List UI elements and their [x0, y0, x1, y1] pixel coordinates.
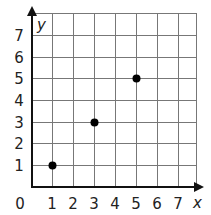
- y-tick: 3: [14, 114, 24, 132]
- x-tick: 4: [110, 195, 120, 213]
- y-tick: 2: [14, 135, 24, 153]
- x-tick: 3: [89, 195, 99, 213]
- x-tick-labels: 0 1 2 3 4 5 6 7: [15, 195, 183, 213]
- x-axis-label: x: [192, 194, 202, 212]
- point-5-5: [133, 75, 141, 83]
- coordinate-plane: y x 1 2 3 4 5 6 7 0 1 2 3 4 5 6 7: [0, 0, 211, 215]
- grid: [32, 13, 197, 187]
- y-axis-label: y: [36, 16, 47, 34]
- x-tick: 1: [47, 195, 57, 213]
- point-3-3: [91, 119, 99, 127]
- x-tick: 5: [131, 195, 141, 213]
- y-tick-labels: 1 2 3 4 5 6 7: [14, 27, 24, 175]
- y-tick: 1: [14, 157, 24, 175]
- y-tick: 6: [14, 49, 24, 67]
- y-tick: 7: [14, 27, 24, 45]
- point-1-1: [49, 162, 57, 170]
- x-tick: 6: [152, 195, 162, 213]
- x-tick: 2: [68, 195, 78, 213]
- y-tick: 5: [14, 70, 24, 88]
- origin-label: 0: [15, 195, 25, 213]
- x-tick: 7: [173, 195, 183, 213]
- x-axis-arrow-icon: [194, 182, 204, 192]
- y-tick: 4: [14, 92, 24, 110]
- y-axis-arrow-icon: [27, 6, 37, 16]
